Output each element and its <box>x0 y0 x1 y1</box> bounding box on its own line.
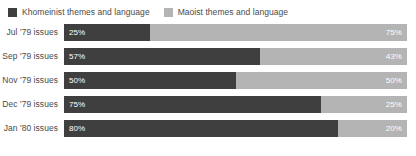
stacked-bar-chart: Khomeinist themes and language Maoist th… <box>0 0 416 156</box>
bar-value-khomeinist-sep-79: 57% <box>69 53 85 61</box>
table-row: Sep '79 issues 57% 43% <box>0 48 416 65</box>
bar-segment-khomeinist-sep-79[interactable]: 57% <box>64 48 260 65</box>
bar-value-khomeinist-dec-79: 75% <box>69 101 85 109</box>
bar-track-jan-80: 80% 20% <box>64 120 407 137</box>
table-row: Dec '79 issues 75% 25% <box>0 96 416 113</box>
bar-value-maoist-dec-79: 25% <box>386 101 402 109</box>
bar-segment-maoist-jul-79[interactable]: 75% <box>150 24 407 41</box>
bar-segment-khomeinist-jul-79[interactable]: 25% <box>64 24 150 41</box>
table-row: Jul '79 issues 25% 75% <box>0 24 416 41</box>
category-label-nov-79: Nov '79 issues <box>0 76 64 85</box>
table-row: Nov '79 issues 50% 50% <box>0 72 416 89</box>
bar-segment-maoist-sep-79[interactable]: 43% <box>260 48 407 65</box>
bar-value-khomeinist-jan-80: 80% <box>69 125 85 133</box>
category-label-jul-79: Jul '79 issues <box>0 28 64 37</box>
bar-track-sep-79: 57% 43% <box>64 48 407 65</box>
bar-segment-maoist-dec-79[interactable]: 25% <box>321 96 407 113</box>
legend-entry-khomeinist[interactable]: Khomeinist themes and language <box>8 8 150 17</box>
table-row: Jan '80 issues 80% 20% <box>0 120 416 137</box>
chart-plot-area: Jul '79 issues 25% 75% Sep '79 issues 57… <box>0 24 416 156</box>
bar-segment-khomeinist-dec-79[interactable]: 75% <box>64 96 321 113</box>
bar-value-maoist-jan-80: 20% <box>386 125 402 133</box>
bar-value-maoist-jul-79: 75% <box>386 29 402 37</box>
category-label-dec-79: Dec '79 issues <box>0 100 64 109</box>
legend-label-maoist: Maoist themes and language <box>178 8 288 17</box>
bar-segment-khomeinist-jan-80[interactable]: 80% <box>64 120 338 137</box>
bar-value-maoist-sep-79: 43% <box>386 53 402 61</box>
legend-swatch-maoist <box>164 8 173 17</box>
category-label-jan-80: Jan '80 issues <box>0 124 64 133</box>
legend-label-khomeinist: Khomeinist themes and language <box>22 8 150 17</box>
bar-track-jul-79: 25% 75% <box>64 24 407 41</box>
bar-value-maoist-nov-79: 50% <box>386 77 402 85</box>
bar-segment-maoist-nov-79[interactable]: 50% <box>236 72 408 89</box>
category-label-sep-79: Sep '79 issues <box>0 52 64 61</box>
chart-legend: Khomeinist themes and language Maoist th… <box>8 5 288 19</box>
bar-value-khomeinist-jul-79: 25% <box>69 29 85 37</box>
bar-value-khomeinist-nov-79: 50% <box>69 77 85 85</box>
bar-track-nov-79: 50% 50% <box>64 72 407 89</box>
bar-track-dec-79: 75% 25% <box>64 96 407 113</box>
legend-entry-maoist[interactable]: Maoist themes and language <box>164 8 288 17</box>
legend-swatch-khomeinist <box>8 8 17 17</box>
bar-segment-khomeinist-nov-79[interactable]: 50% <box>64 72 236 89</box>
bar-segment-maoist-jan-80[interactable]: 20% <box>338 120 407 137</box>
